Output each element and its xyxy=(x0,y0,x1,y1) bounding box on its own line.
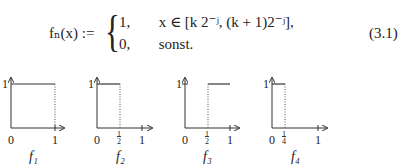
xtick-0-f2: 0 xyxy=(94,133,100,148)
xtick-0-f3: 0 xyxy=(182,133,188,148)
plot-f4 xyxy=(272,78,327,131)
label-f2: f₂ xyxy=(116,149,125,165)
xtick-1-f4: 1 xyxy=(315,133,321,148)
quarter-denominator: 4 xyxy=(282,136,286,146)
xtick-1-f2: 1 xyxy=(139,133,145,148)
plot-f2 xyxy=(97,78,152,131)
function-plots xyxy=(0,0,403,168)
ytick-1-f1: 1 xyxy=(2,77,8,92)
label-f4: f₄ xyxy=(291,149,300,165)
xtick-0-f1: 0 xyxy=(8,133,14,148)
half-denominator: 2 xyxy=(205,136,209,146)
xtick-half-f3: 1 2 xyxy=(205,131,209,145)
xtick-1-f3: 1 xyxy=(227,133,233,148)
half-denominator: 2 xyxy=(117,136,121,146)
plot-f3 xyxy=(182,78,239,131)
xtick-0-f4: 0 xyxy=(269,133,275,148)
ytick-1-f4: 1 xyxy=(263,77,269,92)
plot-f1 xyxy=(11,78,64,131)
ytick-1-f2: 1 xyxy=(88,77,94,92)
xtick-1-f1: 1 xyxy=(52,133,58,148)
xtick-half-f2: 1 2 xyxy=(117,131,121,145)
xtick-quarter-f4: 1 4 xyxy=(282,131,286,145)
label-f1: f₁ xyxy=(29,149,38,165)
ytick-1-f3: 1 xyxy=(176,77,182,92)
label-f3: f₃ xyxy=(203,149,212,165)
